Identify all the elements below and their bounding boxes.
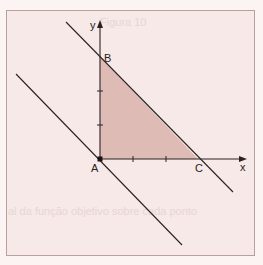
point-a-marker — [98, 157, 103, 162]
y-axis-arrow-icon — [97, 20, 103, 28]
x-axis-label: x — [240, 161, 246, 173]
point-a-label: A — [91, 162, 99, 174]
coordinate-diagram: y x B A C — [0, 0, 263, 265]
point-c-label: C — [195, 162, 203, 174]
y-axis-label: y — [90, 19, 96, 31]
point-b-label: B — [104, 52, 111, 64]
